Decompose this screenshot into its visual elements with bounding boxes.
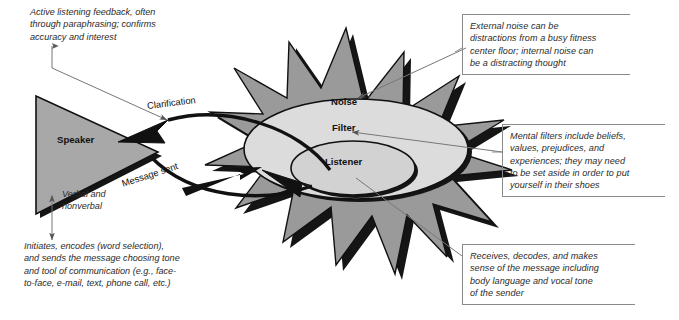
clarification-arrowhead (118, 120, 168, 143)
verbal-and-nonverbal-note: Verbal and nonverbal (62, 188, 152, 213)
initiates-encodes-note: Initiates, encodes (word selection), and… (24, 240, 254, 290)
speaker-label: Speaker (57, 134, 94, 145)
communication-diagram-figure: Speaker Noise Filter Listener Clarificat… (0, 0, 679, 320)
mental-filters-note: Mental filters include beliefs, values, … (502, 124, 665, 197)
listener-label: Listener (325, 156, 362, 167)
active-listening-feedback-note: Active listening feedback, often through… (30, 6, 230, 43)
external-noise-note: External noise can be distractions from … (462, 14, 630, 75)
receives-decodes-note: Receives, decodes, and makes sense of th… (462, 244, 635, 305)
filter-label: Filter (332, 122, 355, 133)
noise-label: Noise (331, 96, 357, 107)
